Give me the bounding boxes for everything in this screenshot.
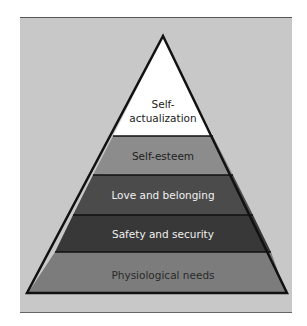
label-self-esteem: Self-esteem <box>132 150 194 162</box>
label-physiological-needs: Physiological needs <box>111 269 214 281</box>
label-love-and-belonging: Love and belonging <box>111 189 214 201</box>
label-self-actualization-line1: Self- <box>152 98 175 110</box>
label-safety-and-security: Safety and security <box>112 228 214 240</box>
pyramid-diagram: Self- actualization Self-esteem Love and… <box>0 0 307 326</box>
label-self-actualization-line2: actualization <box>129 112 196 124</box>
